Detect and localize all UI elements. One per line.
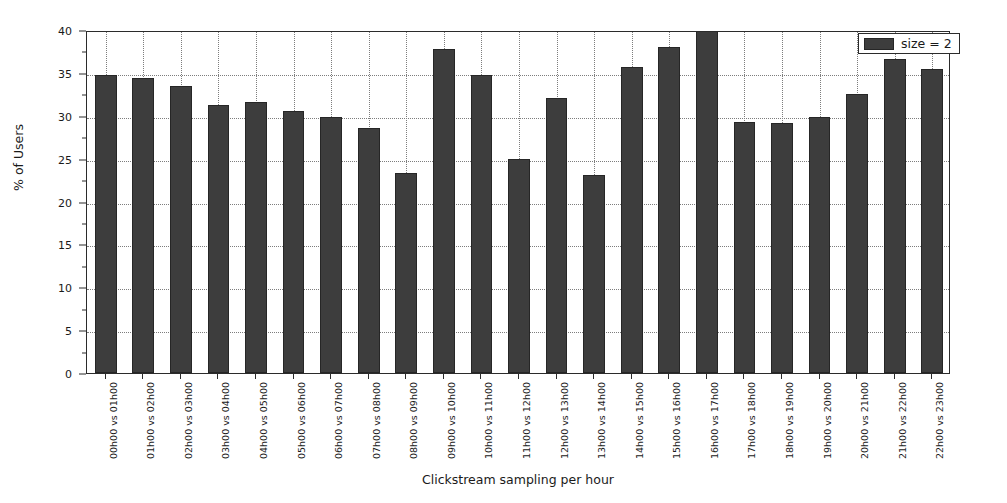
y-tick-label: 25	[58, 154, 72, 165]
plot-area	[86, 31, 950, 374]
bar	[508, 159, 530, 373]
bar	[583, 175, 605, 373]
bar	[771, 123, 793, 373]
x-tick-mark	[255, 374, 256, 379]
x-tick-mark	[105, 374, 106, 379]
y-tick-label: 5	[65, 326, 72, 337]
x-tick-mark	[668, 374, 669, 379]
x-tick-mark	[480, 374, 481, 379]
x-tick-mark	[405, 374, 406, 379]
x-tick-mark	[142, 374, 143, 379]
bar	[395, 173, 417, 373]
x-tick-label: 00h00 vs 01h00	[109, 382, 119, 459]
bar	[809, 117, 831, 373]
x-tick-label: 22h00 vs 23h00	[935, 382, 945, 459]
x-tick-label: 15h00 vs 16h00	[672, 382, 682, 459]
x-tick-label: 10h00 vs 11h00	[484, 382, 494, 459]
bar-chart-figure: 0510152025303540 % of Users 00h00 vs 01h…	[0, 0, 1007, 503]
x-tick-mark	[518, 374, 519, 379]
x-tick-label: 04h00 vs 05h00	[259, 382, 269, 459]
bar	[696, 31, 718, 373]
x-tick-label: 18h00 vs 19h00	[785, 382, 795, 459]
bar	[95, 75, 117, 373]
x-tick-label: 19h00 vs 20h00	[823, 382, 833, 459]
bar	[245, 102, 267, 373]
bar	[658, 47, 680, 373]
legend-swatch-icon	[864, 38, 894, 50]
y-tick-mark	[79, 374, 86, 375]
y-tick-mark	[79, 202, 86, 203]
y-tick-mark	[79, 288, 86, 289]
x-tick-mark	[330, 374, 331, 379]
x-tick-label: 21h00 vs 22h00	[898, 382, 908, 459]
bar	[283, 111, 305, 373]
bar	[884, 59, 906, 373]
bar-series	[87, 32, 949, 373]
y-tick-label: 30	[58, 111, 72, 122]
y-tick-label: 40	[58, 26, 72, 37]
x-tick-label: 17h00 vs 18h00	[747, 382, 757, 459]
bar	[132, 78, 154, 373]
y-tick-label: 0	[65, 369, 72, 380]
bar	[320, 117, 342, 373]
x-tick-label: 01h00 vs 02h00	[146, 382, 156, 459]
y-tick-label: 35	[58, 68, 72, 79]
bar	[621, 67, 643, 373]
y-tick-mark	[79, 159, 86, 160]
x-tick-label: 11h00 vs 12h00	[522, 382, 532, 459]
bar	[358, 128, 380, 373]
bar	[471, 75, 493, 373]
x-tick-mark	[556, 374, 557, 379]
y-tick-mark	[79, 116, 86, 117]
bar	[734, 122, 756, 373]
x-tick-label: 16h00 vs 17h00	[710, 382, 720, 459]
x-tick-mark	[293, 374, 294, 379]
x-tick-label: 05h00 vs 06h00	[297, 382, 307, 459]
x-tick-mark	[217, 374, 218, 379]
y-tick-mark	[79, 31, 86, 32]
x-tick-mark	[894, 374, 895, 379]
x-tick-label: 08h00 vs 09h00	[409, 382, 419, 459]
y-tick-mark	[79, 245, 86, 246]
x-tick-label: 02h00 vs 03h00	[184, 382, 194, 459]
x-tick-mark	[593, 374, 594, 379]
x-tick-label: 09h00 vs 10h00	[447, 382, 457, 459]
bar	[546, 98, 568, 373]
x-tick-mark	[931, 374, 932, 379]
x-tick-label: 14h00 vs 15h00	[635, 382, 645, 459]
x-axis: 00h00 vs 01h0001h00 vs 02h0002h00 vs 03h…	[86, 374, 950, 469]
x-tick-label: 20h00 vs 21h00	[860, 382, 870, 459]
x-tick-label: 03h00 vs 04h00	[221, 382, 231, 459]
y-axis-title: % of Users	[11, 78, 26, 238]
x-tick-mark	[180, 374, 181, 379]
x-tick-mark	[856, 374, 857, 379]
x-tick-label: 13h00 vs 14h00	[597, 382, 607, 459]
x-axis-title: Clickstream sampling per hour	[86, 472, 950, 487]
x-tick-mark	[781, 374, 782, 379]
bar	[170, 86, 192, 373]
bar	[846, 94, 868, 373]
x-tick-label: 12h00 vs 13h00	[560, 382, 570, 459]
bar	[433, 49, 455, 373]
legend: size = 2	[858, 33, 960, 54]
x-tick-mark	[706, 374, 707, 379]
x-tick-label: 07h00 vs 08h00	[372, 382, 382, 459]
x-tick-mark	[743, 374, 744, 379]
x-tick-mark	[368, 374, 369, 379]
x-tick-mark	[819, 374, 820, 379]
x-tick-mark	[443, 374, 444, 379]
y-tick-label: 10	[58, 283, 72, 294]
legend-entry-label: size = 2	[901, 37, 952, 50]
x-tick-label: 06h00 vs 07h00	[334, 382, 344, 459]
y-tick-label: 15	[58, 240, 72, 251]
bar	[208, 105, 230, 373]
y-tick-mark	[79, 331, 86, 332]
y-tick-mark	[79, 73, 86, 74]
bar	[921, 69, 943, 373]
x-tick-mark	[631, 374, 632, 379]
y-tick-label: 20	[58, 197, 72, 208]
